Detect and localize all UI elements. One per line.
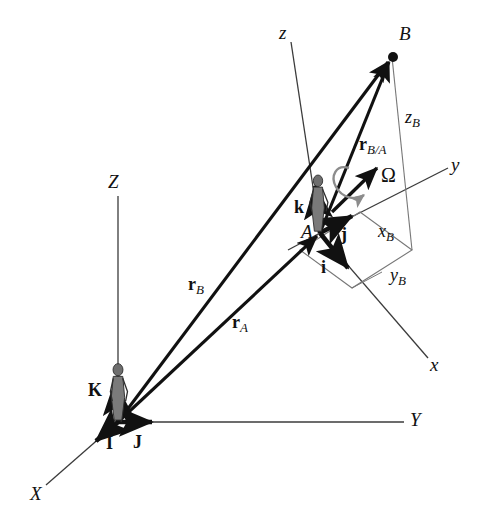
- zB-drop-line: [392, 57, 412, 250]
- component-label-zB-main: z: [405, 107, 412, 127]
- axis-label-Z: Z: [108, 172, 119, 191]
- component-label-yB-main: y: [390, 265, 398, 285]
- diagram-canvas: [0, 0, 484, 531]
- component-label-zB: zB: [405, 108, 420, 126]
- kinematics-figure: Z X Y z y x A B K I J k j i Ω rA rB rB/A…: [0, 0, 484, 531]
- unit-vector-label-j: j: [341, 225, 347, 243]
- axis-label-y: y: [451, 155, 459, 174]
- vector-rA: [118, 236, 317, 422]
- axis-label-z: z: [279, 23, 286, 42]
- unit-vector-label-I: I: [106, 434, 113, 452]
- omega-label: Ω: [381, 165, 396, 185]
- vector-label-rB: rB: [188, 275, 204, 293]
- unit-vector-label-i: i: [321, 258, 326, 276]
- component-label-xB: xB: [378, 222, 394, 240]
- axis-label-X: X: [30, 484, 42, 503]
- unit-vector-label-k: k: [294, 198, 304, 216]
- point-label-A: A: [301, 222, 313, 241]
- unit-vector-label-K: K: [88, 381, 102, 399]
- component-label-yB: yB: [390, 266, 406, 284]
- vector-rB: [118, 62, 388, 422]
- vector-label-rA-sub: A: [240, 320, 248, 335]
- component-label-xB-main: x: [378, 221, 386, 241]
- component-label-zB-sub: B: [412, 115, 420, 130]
- vector-label-rA: rA: [232, 313, 248, 331]
- position-vectors-group: [118, 62, 389, 422]
- vector-label-rA-main: r: [232, 312, 240, 332]
- point-label-B: B: [399, 24, 411, 43]
- vector-label-rBA-sub: B/A: [367, 142, 387, 157]
- vector-label-rB-sub: B: [196, 282, 204, 297]
- vector-label-rBA-main: r: [359, 134, 367, 154]
- vector-label-rB-main: r: [188, 274, 196, 294]
- component-label-xB-sub: B: [386, 229, 394, 244]
- unit-vector-label-J: J: [133, 433, 142, 451]
- global-axes-group: [46, 196, 404, 485]
- point-B-marker: [388, 52, 398, 62]
- component-label-yB-sub: B: [398, 273, 406, 288]
- axis-label-Y: Y: [410, 410, 421, 429]
- axis-label-x: x: [430, 355, 438, 374]
- omega-vector-group: [332, 167, 377, 212]
- vector-label-rBA: rB/A: [359, 135, 387, 153]
